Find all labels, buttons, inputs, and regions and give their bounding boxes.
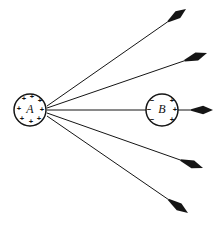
body-a-charge-plus-3: + [17,104,22,113]
body-b-label: B [158,102,166,116]
ray-horizontal-arrowhead [191,106,213,114]
body-a-label: A [25,102,34,116]
body-a-charge-plus-2: + [38,96,43,105]
body-a-charge-plus-6: + [29,117,34,126]
ray-upper-inner [47,53,207,108]
body-a-charge-plus-4: + [40,105,45,114]
ray-lower-outer-shaft [47,116,168,199]
body-a-charge-plus-7: + [37,114,42,123]
body-b-charge-minus-0: − [150,96,155,105]
ray-horizontal [47,106,213,114]
ray-lower-inner-arrowhead [180,159,203,168]
body-b-charge-minus-2: − [150,115,155,124]
physics-diagram-figure: ++++++++A−−−+++B [0,0,219,225]
body-b-charge-plus-5: + [170,115,175,124]
ray-lower-outer [47,116,188,213]
ray-upper-outer [47,9,186,106]
ray-upper-outer-shaft [47,22,168,106]
body-b-charge-plus-3: + [170,96,175,105]
body-a-charge-plus-5: + [20,114,25,123]
ray-lower-inner [47,113,203,168]
body-b-charge-minus-1: − [147,105,152,114]
ray-upper-outer-arrowhead [168,9,186,22]
body-a-charge-plus-1: + [30,92,35,101]
body-a: ++++++++A [14,92,46,126]
ray-lower-outer-arrowhead [168,199,188,213]
body-b: −−−+++B [146,94,178,126]
diagram-canvas: ++++++++A−−−+++B [0,0,219,225]
ray-upper-inner-arrowhead [184,53,207,62]
body-b-charge-plus-4: + [173,105,178,114]
